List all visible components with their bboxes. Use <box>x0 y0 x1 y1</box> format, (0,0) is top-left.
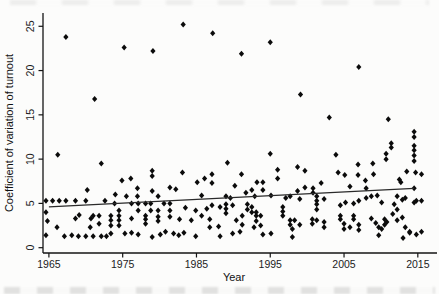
data-point <box>223 210 228 216</box>
data-point <box>254 213 259 219</box>
data-point <box>322 224 327 230</box>
data-point <box>310 190 315 196</box>
y-tick-label: 20 <box>25 65 37 77</box>
data-point <box>156 207 161 213</box>
data-point <box>375 192 380 198</box>
turnout-cv-scatter-figure: 0510152025 196519751985199520052015 Coef… <box>0 0 439 294</box>
x-tick-label: 1965 <box>37 258 61 270</box>
data-point <box>389 145 394 151</box>
data-point <box>412 147 417 153</box>
y-axis-ticks: 0510152025 <box>25 20 44 250</box>
y-axis-title: Coefficient of variation of turnout <box>3 54 15 212</box>
y-tick-label: 15 <box>25 109 37 121</box>
data-point <box>239 51 244 57</box>
data-point <box>234 217 239 223</box>
data-point <box>390 211 395 217</box>
data-point <box>392 201 397 207</box>
data-point <box>419 229 424 235</box>
data-point <box>403 224 408 230</box>
data-point <box>129 230 134 236</box>
data-point <box>314 201 319 207</box>
scatter-chart: 0510152025 196519751985199520052015 Coef… <box>0 0 439 294</box>
data-point <box>295 188 300 194</box>
data-point <box>91 233 96 239</box>
data-point <box>412 129 417 135</box>
data-point <box>341 226 346 232</box>
data-point <box>400 235 405 241</box>
data-point <box>199 192 204 198</box>
data-point <box>43 232 48 238</box>
data-point <box>83 198 88 204</box>
data-point <box>338 216 343 222</box>
data-point <box>322 219 327 225</box>
data-point <box>342 172 347 178</box>
data-point <box>356 198 361 204</box>
data-point <box>202 176 207 182</box>
data-point <box>207 216 212 222</box>
data-point <box>292 217 297 223</box>
data-point <box>363 177 368 183</box>
data-point <box>55 152 60 158</box>
data-point <box>369 193 374 199</box>
data-point <box>355 172 360 178</box>
data-point <box>251 224 256 230</box>
x-tick-label: 2015 <box>406 258 430 270</box>
data-point <box>351 200 356 206</box>
data-point <box>290 234 295 240</box>
data-point <box>193 207 198 213</box>
x-axis-title: Year <box>223 271 246 283</box>
data-point <box>217 204 222 210</box>
data-point <box>122 45 127 51</box>
data-point <box>92 96 97 102</box>
data-point <box>216 223 221 229</box>
data-point <box>122 231 127 237</box>
data-point <box>254 179 259 185</box>
data-point <box>177 216 182 222</box>
data-point <box>283 195 288 201</box>
data-point <box>268 231 273 237</box>
data-point <box>356 227 361 233</box>
data-point <box>275 167 280 173</box>
data-point <box>243 190 248 196</box>
data-point <box>370 161 375 167</box>
data-point <box>232 183 237 189</box>
data-point <box>414 231 419 237</box>
data-point <box>258 213 263 219</box>
data-point <box>76 233 81 239</box>
data-point <box>413 169 418 175</box>
data-point <box>204 206 209 212</box>
x-tick-label: 1975 <box>111 258 135 270</box>
data-point <box>404 169 409 175</box>
data-point <box>297 196 302 202</box>
data-point <box>295 164 300 170</box>
data-point <box>319 180 324 186</box>
data-point <box>314 217 319 223</box>
data-point <box>207 224 212 230</box>
data-point <box>176 232 181 238</box>
data-point <box>245 201 250 207</box>
x-tick-label: 1995 <box>259 258 283 270</box>
data-point <box>54 224 59 230</box>
data-point <box>119 177 124 183</box>
y-tick-label: 25 <box>25 20 37 32</box>
data-point <box>260 179 265 185</box>
data-point <box>347 184 352 190</box>
data-point <box>237 229 242 235</box>
data-point <box>148 207 153 213</box>
data-point <box>209 180 214 186</box>
data-point <box>395 193 400 199</box>
y-tick-label: 0 <box>25 245 37 251</box>
data-point <box>386 116 391 122</box>
data-point <box>240 213 245 219</box>
data-point <box>310 216 315 222</box>
data-point <box>136 231 141 237</box>
data-point <box>355 161 360 167</box>
data-point <box>129 215 134 221</box>
data-point <box>364 195 369 201</box>
data-point <box>73 198 78 204</box>
data-point <box>181 230 186 236</box>
data-point <box>373 220 378 226</box>
data-point <box>297 222 302 228</box>
data-point <box>356 222 361 228</box>
data-point <box>173 186 178 192</box>
